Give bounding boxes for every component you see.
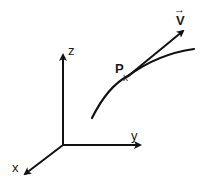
vector-label: V — [176, 13, 185, 28]
point-label: P — [115, 61, 124, 76]
coordinate-diagram: z y x x P → V — [0, 0, 208, 187]
trajectory-curve — [92, 49, 194, 118]
y-axis-label: y — [131, 128, 138, 143]
z-axis-label: z — [68, 43, 75, 58]
point-marker: x — [123, 72, 128, 83]
x-axis — [25, 145, 63, 174]
x-axis-label: x — [12, 160, 19, 175]
